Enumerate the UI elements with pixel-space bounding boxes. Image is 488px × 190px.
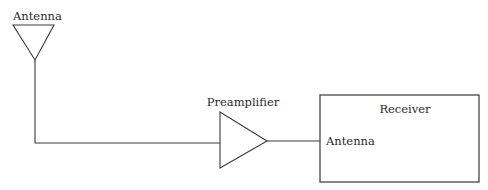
antenna-icon [13,25,54,60]
signal-chain-diagram: Antenna Preamplifier Receiver Antenna [0,0,488,190]
receiver-label: Receiver [379,102,431,116]
connection-antenna-to-preamplifier [35,60,220,143]
receiver-node: Receiver Antenna [320,95,479,182]
preamplifier-label: Preamplifier [207,95,280,109]
antenna-label: Antenna [12,9,62,23]
preamplifier-node: Preamplifier [207,95,280,168]
amplifier-icon [220,112,267,168]
antenna-node: Antenna [12,9,62,60]
receiver-antenna-port-label: Antenna [325,134,375,148]
